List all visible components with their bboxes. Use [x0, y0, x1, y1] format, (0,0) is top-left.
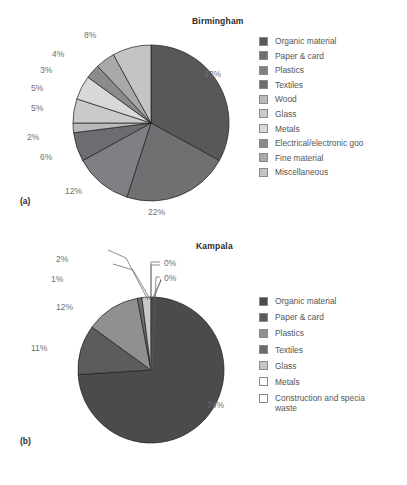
- leader-line: [108, 250, 148, 300]
- legend-label: Organic material: [275, 36, 336, 46]
- legend-label: Wood: [275, 94, 297, 104]
- pie-percent-label: 0%: [164, 273, 176, 283]
- legend-swatch-icon: [259, 109, 268, 118]
- pie-percent-label: 5%: [31, 83, 43, 93]
- pie-percent-label: 12%: [56, 302, 73, 312]
- legend-swatch-icon: [259, 95, 268, 104]
- legend-swatch-icon: [259, 51, 268, 60]
- legend-swatch-icon: [259, 297, 268, 306]
- pie-percent-label: 12%: [65, 186, 82, 196]
- pie-percent-label: 4%: [52, 49, 64, 59]
- legend-swatch-icon: [259, 329, 268, 338]
- legend-item: Wood: [259, 94, 363, 104]
- legend-item: Construction and specia waste: [259, 393, 365, 413]
- legend-swatch-icon: [259, 377, 268, 386]
- legend-item: Paper & card: [259, 51, 363, 61]
- legend-item: Fine material: [259, 153, 363, 163]
- legend-swatch-icon: [259, 66, 268, 75]
- legend-label: Textiles: [275, 80, 303, 90]
- pie-percent-label: 1%: [51, 274, 63, 284]
- legend-swatch-icon: [259, 124, 268, 133]
- legend-label: Plastics: [275, 65, 304, 75]
- legend-item: Organic material: [259, 296, 365, 306]
- legend-item: Glass: [259, 109, 363, 119]
- pie-percent-label: 11%: [31, 343, 47, 353]
- legend-kampala: Organic materialPaper & cardPlasticsText…: [259, 296, 365, 419]
- pie-percent-label: 5%: [31, 103, 43, 113]
- pie-percent-label: 33%: [204, 69, 221, 79]
- pie-percent-label: 3%: [40, 65, 52, 75]
- legend-item: Plastics: [259, 65, 363, 75]
- figure-container: Birmingham (a) Kampala (b) 33%22%12%6%2%…: [0, 0, 407, 485]
- legend-item: Glass: [259, 361, 365, 371]
- legend-label: Plastics: [275, 328, 304, 338]
- legend-item: Textiles: [259, 345, 365, 355]
- legend-label: Glass: [275, 361, 296, 371]
- legend-label: Textiles: [275, 345, 303, 355]
- legend-label: Electrical/electronic goo: [275, 138, 363, 148]
- legend-item: Metals: [259, 124, 363, 134]
- legend-label: Paper & card: [275, 312, 324, 322]
- legend-item: Textiles: [259, 80, 363, 90]
- legend-swatch-icon: [259, 361, 268, 370]
- legend-label: Miscellaneous: [275, 167, 328, 177]
- legend-swatch-icon: [259, 139, 268, 148]
- legend-label: Fine material: [275, 153, 323, 163]
- legend-label: Glass: [275, 109, 296, 119]
- legend-swatch-icon: [259, 313, 268, 322]
- legend-birmingham: Organic materialPaper & cardPlasticsText…: [259, 36, 363, 182]
- legend-swatch-icon: [259, 37, 268, 46]
- legend-swatch-icon: [259, 80, 268, 89]
- legend-item: Metals: [259, 377, 365, 387]
- legend-swatch-icon: [259, 168, 268, 177]
- pie-percent-label: 2%: [56, 254, 68, 264]
- legend-swatch-icon: [259, 153, 268, 162]
- pie-percent-label: 22%: [148, 207, 165, 217]
- pie-percent-label: 74%: [207, 400, 224, 410]
- legend-item: Organic material: [259, 36, 363, 46]
- legend-label: Metals: [275, 124, 300, 134]
- legend-item: Plastics: [259, 328, 365, 338]
- legend-label: Construction and specia waste: [275, 393, 365, 413]
- pie-percent-label: 8%: [84, 30, 96, 40]
- pie-percent-label: 6%: [40, 152, 52, 162]
- legend-item: Electrical/electronic goo: [259, 138, 363, 148]
- legend-item: Paper & card: [259, 312, 365, 322]
- legend-item: Miscellaneous: [259, 167, 363, 177]
- legend-swatch-icon: [259, 345, 268, 354]
- legend-label: Paper & card: [275, 51, 324, 61]
- legend-swatch-icon: [259, 394, 268, 403]
- pie-percent-label: 0%: [164, 258, 176, 268]
- legend-label: Organic material: [275, 296, 336, 306]
- legend-label: Metals: [275, 377, 300, 387]
- pie-percent-label: 2%: [27, 132, 39, 142]
